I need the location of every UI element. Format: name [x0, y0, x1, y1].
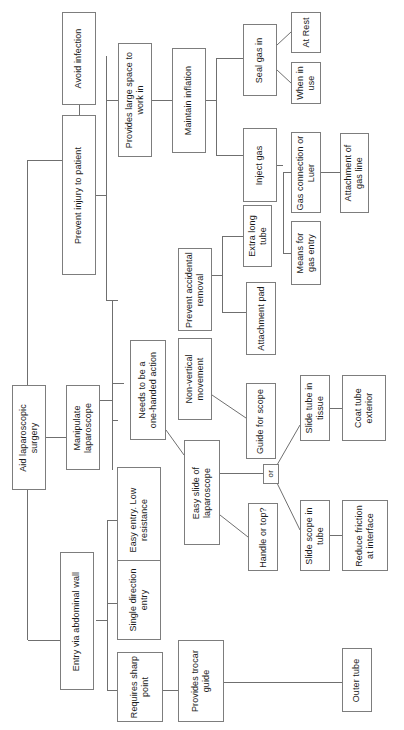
- node-or[interactable]: or: [263, 464, 279, 484]
- node-attachment-pad[interactable]: Attachment pad: [246, 282, 276, 355]
- node-label: Aid laparoscopicsurgery: [18, 404, 40, 472]
- node-handle-or-top[interactable]: Handle or top?: [248, 503, 278, 571]
- node-inject-gas[interactable]: Inject gas: [243, 128, 277, 202]
- node-label: When inuse: [295, 66, 317, 100]
- node-label: Inject gas: [255, 145, 266, 185]
- node-label: Maintain inflation: [184, 66, 195, 135]
- link-seal-to-at-rest: [277, 32, 291, 45]
- node-guide-for-scope[interactable]: Guide for scope: [246, 383, 276, 459]
- node-label: Needs to be aone-handed action: [137, 352, 159, 428]
- link-or-to-slide-tube-tissue: [277, 425, 300, 465]
- diagram-canvas: Avoid infection Prevent injury to patien…: [0, 0, 404, 730]
- node-label: Gas connection orLuer: [295, 135, 317, 210]
- node-label: Provides trocarguide: [190, 650, 212, 712]
- node-label: Single directionentry: [128, 568, 150, 631]
- node-outer-tube[interactable]: Outer tube: [342, 648, 372, 712]
- node-label: Seal gas in: [255, 37, 266, 83]
- node-label: Outer tube: [352, 658, 363, 702]
- node-seal-gas-in[interactable]: Seal gas in: [243, 24, 277, 96]
- node-entry-via-abdominal-wall[interactable]: Entry via abdominal wall: [60, 552, 94, 690]
- node-provides-large-space[interactable]: Provides large space towork in: [118, 43, 152, 157]
- node-reduce-friction-at-interface[interactable]: Reduce frictionat interface: [342, 500, 388, 571]
- node-label: Non-verticalmovement: [184, 354, 206, 403]
- node-easy-slide-of-laparoscope[interactable]: Easy slide oflaparoscope: [184, 440, 220, 545]
- node-label: Easy slide oflaparoscope: [191, 466, 213, 518]
- link-seal-to-when-in-use: [277, 70, 291, 83]
- node-avoid-infection[interactable]: Avoid infection: [62, 12, 96, 105]
- node-label: Extra longtube: [247, 215, 269, 257]
- node-slide-scope-in-tube[interactable]: Slide scope intube: [300, 500, 330, 571]
- node-label: Requires sharppoint: [129, 656, 151, 718]
- link-onehanded-to-easyslide: [166, 430, 184, 455]
- node-single-direction-entry[interactable]: Single directionentry: [117, 560, 161, 640]
- node-label: Easy entry. Lowresistance: [128, 487, 150, 552]
- link-nonvertical-to-guide: [212, 395, 246, 418]
- node-label: Guide for scope: [256, 388, 267, 453]
- node-easy-entry-low-resistance[interactable]: Easy entry. Lowresistance: [117, 467, 161, 572]
- node-prevent-injury-to-patient[interactable]: Prevent injury to patient: [62, 115, 96, 275]
- node-when-in-use[interactable]: When inuse: [291, 62, 321, 104]
- node-aid-laparoscopic-surgery[interactable]: Aid laparoscopicsurgery: [12, 385, 46, 490]
- node-at-rest[interactable]: At Rest: [291, 12, 321, 53]
- node-provides-trocar-guide[interactable]: Provides trocarguide: [178, 640, 224, 722]
- node-label: At Rest: [301, 17, 312, 47]
- node-label: Prevent injury to patient: [74, 146, 85, 243]
- node-means-for-gas-entry[interactable]: Means forgas entry: [291, 221, 321, 285]
- node-label: Attachment ofgas line: [344, 145, 366, 202]
- link-or-to-slide-scope-tube: [277, 483, 300, 530]
- node-label: Manipulatelaparoscope: [72, 402, 94, 452]
- node-attachment-of-gas-line[interactable]: Attachment ofgas line: [340, 133, 369, 213]
- node-manipulate-laparoscope[interactable]: Manipulatelaparoscope: [66, 385, 100, 470]
- node-non-vertical-movement[interactable]: Non-verticalmovement: [178, 338, 212, 420]
- node-label: Provides large space towork in: [124, 52, 146, 148]
- link-easyslide-to-handle: [220, 515, 248, 537]
- node-prevent-accidental-removal[interactable]: Prevent accidentalremoval: [178, 248, 212, 331]
- node-label: Reduce frictionat interface: [354, 505, 376, 567]
- node-label: Avoid infection: [74, 29, 85, 89]
- node-label: Prevent accidentalremoval: [184, 252, 206, 328]
- node-label: or: [266, 470, 276, 477]
- node-label: Means forgas entry: [295, 233, 317, 274]
- node-label: Slide tube intissue: [304, 383, 326, 434]
- node-requires-sharp-point[interactable]: Requires sharppoint: [117, 652, 163, 722]
- node-label: Slide scope intube: [304, 507, 326, 564]
- node-label: Coat tubeexterior: [353, 388, 375, 428]
- node-slide-tube-in-tissue[interactable]: Slide tube intissue: [300, 375, 330, 441]
- node-label: Handle or top?: [258, 507, 269, 567]
- node-label: Attachment pad: [256, 286, 267, 350]
- node-gas-connection-or-luer[interactable]: Gas connection orLuer: [291, 132, 321, 213]
- node-extra-long-tube[interactable]: Extra longtube: [243, 205, 272, 267]
- node-label: Entry via abdominal wall: [72, 571, 83, 670]
- node-needs-one-handed-action[interactable]: Needs to be aone-handed action: [130, 340, 166, 440]
- node-coat-tube-exterior[interactable]: Coat tubeexterior: [342, 375, 386, 441]
- node-maintain-inflation[interactable]: Maintain inflation: [172, 48, 206, 153]
